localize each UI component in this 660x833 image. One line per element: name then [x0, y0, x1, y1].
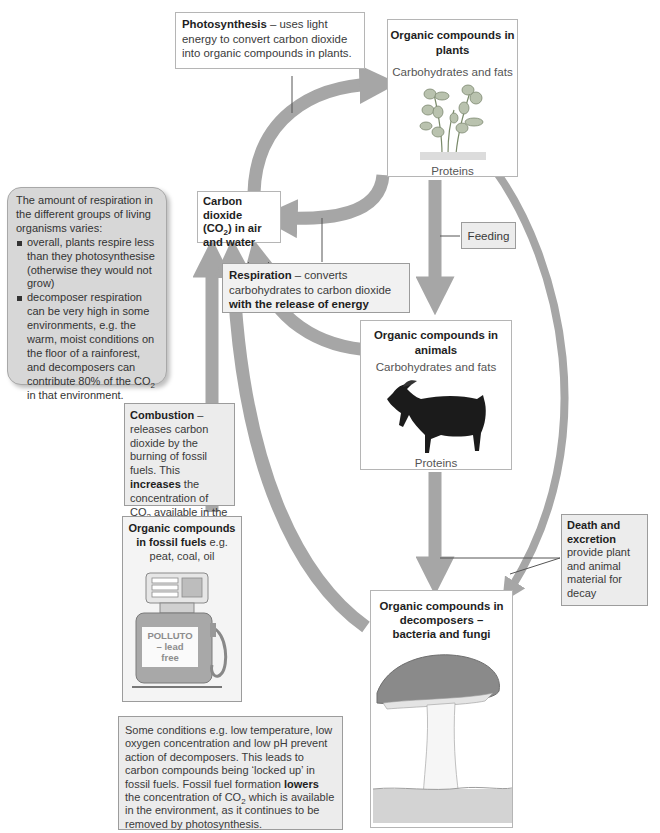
death-excretion-box: Death and excretion provide plant and an…	[561, 514, 648, 606]
fuel-pump-icon: POLLUTO – lead free	[132, 569, 232, 699]
respiration-title: Respiration	[229, 269, 292, 281]
feeding-text: Feeding	[468, 229, 510, 242]
fossil-fuels-text: Organic compounds in fossil fuels e.g. p…	[123, 522, 241, 563]
mushroom-icon	[371, 647, 514, 827]
animals-box: Organic compounds in animals Carbohydrat…	[360, 320, 512, 470]
photosynthesis-title: Photosynthesis	[182, 18, 267, 30]
svg-text:POLLUTO: POLLUTO	[147, 630, 192, 641]
respiration-bold-end: with the release of energy	[229, 298, 369, 310]
respiration-note-intro: The amount of respiration in the differe…	[16, 194, 161, 236]
plants-box: Organic compounds in plants Carbohydrate…	[387, 19, 518, 177]
fossil-fuels-box: Organic compounds in fossil fuels e.g. p…	[122, 516, 242, 702]
death-excretion-title: Death and excretion	[567, 519, 620, 545]
plants-carbs-label: Carbohydrates and fats	[388, 65, 517, 78]
arrows-layer	[0, 0, 660, 833]
decomposers-title: Organic compounds in decomposers – bacte…	[379, 599, 504, 641]
co2-line3: and water	[203, 236, 275, 250]
svg-text:– lead: – lead	[157, 641, 184, 652]
decomposer-respiration-arrow	[233, 262, 366, 627]
plants-title: Organic compounds in plants	[388, 28, 517, 57]
respiration-note-bullet-2: decomposer respiration can be very high …	[16, 291, 161, 402]
animals-proteins-label: Proteins	[361, 456, 511, 469]
animals-carbs-label: Carbohydrates and fats	[361, 360, 511, 373]
animals-title: Organic compounds in animals	[361, 328, 511, 357]
goat-icon	[381, 379, 491, 454]
combustion-title: Combustion	[130, 409, 194, 421]
co2-box: Carbon dioxide (CO2) in air and water	[197, 191, 281, 243]
svg-text:free: free	[161, 652, 178, 663]
photosynthesis-arrow	[254, 84, 375, 193]
photosynthesis-box: Photosynthesis – uses light energy to co…	[175, 12, 365, 69]
death-excretion-text: provide plant and animal material for de…	[567, 546, 630, 599]
plant-respiration-arrow	[282, 175, 383, 218]
respiration-note-bullet-1: overall, plants respire less than they p…	[16, 236, 161, 292]
co2-line2: (CO2) in air	[203, 222, 275, 236]
conditions-box: Some conditions e.g. low temperature, lo…	[118, 716, 343, 830]
respiration-box: Respiration – converts carbohydrates to …	[222, 263, 410, 313]
plants-proteins-label: Proteins	[388, 164, 517, 177]
decomposers-box: Organic compounds in decomposers – bacte…	[370, 590, 513, 828]
combustion-box: Combustion – releases carbon dioxide by …	[124, 403, 235, 506]
feeding-label: Feeding	[461, 222, 516, 249]
respiration-note: The amount of respiration in the differe…	[7, 187, 167, 385]
co2-line1: Carbon dioxide	[203, 195, 275, 222]
combustion-increases: increases	[130, 478, 181, 490]
conditions-lowers: lowers	[284, 778, 319, 790]
plant-icon	[408, 82, 498, 162]
